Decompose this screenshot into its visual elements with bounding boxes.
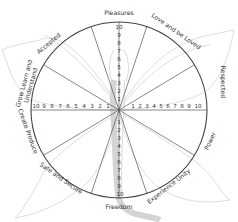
label-power: Power — [203, 131, 217, 151]
svg-text:8: 8 — [117, 175, 121, 181]
svg-text:1: 1 — [117, 96, 121, 102]
svg-text:3: 3 — [145, 103, 149, 109]
svg-text:8: 8 — [180, 103, 184, 109]
svg-text:5: 5 — [74, 103, 78, 109]
svg-text:5: 5 — [159, 103, 163, 109]
svg-text:6: 6 — [117, 56, 121, 62]
svg-text:10: 10 — [115, 24, 123, 30]
svg-text:4: 4 — [117, 72, 121, 78]
svg-text:8: 8 — [117, 40, 121, 46]
svg-text:4: 4 — [82, 103, 86, 109]
svg-text:1: 1 — [131, 103, 135, 109]
svg-text:8: 8 — [50, 103, 54, 109]
label-create-produce: Create Produce — [17, 108, 40, 155]
svg-text:7: 7 — [117, 167, 121, 173]
label-respected: Respected — [219, 66, 227, 98]
svg-text:9: 9 — [42, 103, 46, 109]
svg-text:4: 4 — [152, 103, 156, 109]
svg-text:2: 2 — [138, 103, 142, 109]
svg-text:10: 10 — [194, 103, 202, 109]
svg-text:7: 7 — [173, 103, 177, 109]
svg-text:5: 5 — [117, 151, 121, 157]
svg-text:5: 5 — [117, 64, 121, 70]
svg-text:10: 10 — [32, 103, 40, 109]
svg-text:2: 2 — [98, 103, 102, 109]
svg-text:9: 9 — [187, 103, 191, 109]
svg-text:3: 3 — [117, 80, 121, 86]
svg-text:4: 4 — [117, 143, 121, 149]
svg-text:1: 1 — [106, 103, 110, 109]
svg-text:6: 6 — [66, 103, 70, 109]
svg-text:1: 1 — [117, 119, 121, 125]
svg-text:9: 9 — [117, 32, 121, 38]
svg-text:2: 2 — [117, 127, 121, 133]
label-pleasures: Pleasures — [104, 9, 134, 16]
label-accepted: Accepted — [35, 31, 62, 56]
label-experience-unity: Experience Unity — [146, 167, 193, 206]
svg-text:7: 7 — [58, 103, 62, 109]
svg-text:9: 9 — [117, 183, 121, 189]
svg-text:3: 3 — [117, 135, 121, 141]
svg-text:10: 10 — [116, 191, 124, 197]
axis-left-numbers: 10 9 8 7 6 5 4 3 2 1 — [32, 103, 110, 109]
svg-text:6: 6 — [117, 159, 121, 165]
needs-wheel-diagram: 10 9 8 7 6 5 4 3 2 1 1 2 3 4 5 6 7 8 9 1… — [0, 0, 238, 222]
svg-text:7: 7 — [117, 48, 121, 54]
label-freedom: Freedom — [106, 203, 133, 210]
svg-text:3: 3 — [90, 103, 94, 109]
svg-text:6: 6 — [166, 103, 170, 109]
label-safe-and-secure: Safe and Secure — [39, 161, 85, 196]
svg-text:2: 2 — [117, 88, 121, 94]
